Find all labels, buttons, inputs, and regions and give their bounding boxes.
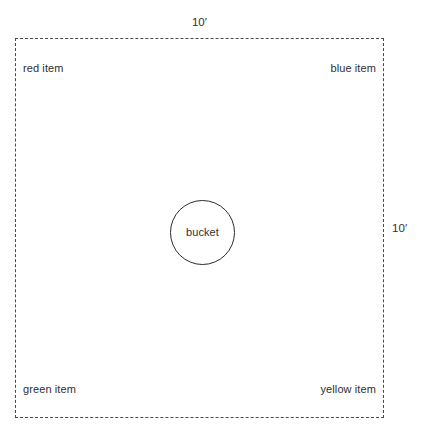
diagram-canvas: 10′ 10′ red item blue item green item ye… [0, 0, 423, 440]
item-label-blue: blue item [0, 62, 376, 74]
bucket-label: bucket [186, 227, 219, 238]
dimension-label-right: 10′ [392, 222, 407, 234]
item-label-yellow: yellow item [0, 383, 376, 395]
dimension-label-top: 10′ [0, 16, 399, 28]
bucket-circle: bucket [170, 200, 235, 265]
